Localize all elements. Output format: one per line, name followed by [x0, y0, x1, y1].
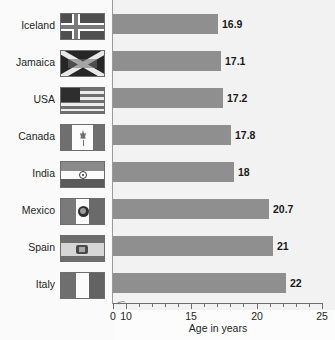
bar-value-india: 18 — [238, 162, 250, 182]
category-label-jamaica: Jamaica — [0, 57, 55, 68]
x-tick-25 — [322, 303, 323, 309]
x-minor-tick — [204, 303, 205, 307]
x-minor-tick — [309, 303, 310, 307]
category-label-italy: Italy — [0, 279, 55, 290]
bar-italy — [113, 273, 286, 293]
bar-canada — [113, 125, 231, 145]
x-axis-line — [113, 303, 323, 304]
category-label-india: India — [0, 168, 55, 179]
x-tick-label-20: 20 — [245, 310, 269, 322]
category-label-spain: Spain — [0, 242, 55, 253]
bar-spain — [113, 236, 273, 256]
bar-value-mexico: 20.7 — [273, 199, 293, 219]
flag-italy-icon — [60, 272, 105, 299]
x-tick-label-10: 10 — [114, 310, 138, 322]
category-label-mexico: Mexico — [0, 205, 55, 216]
flag-spain-icon — [60, 235, 105, 262]
category-label-panel — [0, 0, 113, 310]
bar-india — [113, 162, 234, 182]
bar-usa — [113, 88, 223, 108]
x-axis-title: Age in years — [113, 322, 323, 334]
flag-jamaica-icon — [60, 50, 105, 77]
chart-container: Iceland 16.9 Jamaica 17.1 USA 17.2 Canad… — [0, 0, 335, 340]
x-minor-tick — [283, 303, 284, 307]
x-tick-15 — [191, 303, 192, 309]
bar-value-canada: 17.8 — [235, 125, 255, 145]
bar-value-spain: 21 — [277, 236, 289, 256]
plot-area — [113, 0, 335, 310]
flag-usa-icon — [60, 87, 105, 114]
x-tick-label-25: 25 — [310, 310, 334, 322]
x-minor-tick — [152, 303, 153, 307]
x-tick-20 — [257, 303, 258, 309]
flag-mexico-icon — [60, 198, 105, 225]
bar-value-usa: 17.2 — [227, 88, 247, 108]
flag-iceland-icon — [60, 13, 105, 40]
x-minor-tick — [230, 303, 231, 307]
bar-jamaica — [113, 51, 221, 71]
x-minor-tick — [270, 303, 271, 307]
category-label-iceland: Iceland — [0, 20, 55, 31]
x-tick-label-15: 15 — [179, 310, 203, 322]
x-minor-tick — [217, 303, 218, 307]
x-tick-10 — [126, 303, 127, 309]
x-tick-0 — [113, 303, 114, 309]
flag-canada-icon — [60, 124, 105, 151]
bar-mexico — [113, 199, 269, 219]
x-minor-tick — [178, 303, 179, 307]
label-panel-footer — [0, 310, 113, 340]
x-minor-tick — [243, 303, 244, 307]
x-minor-tick — [296, 303, 297, 307]
category-label-canada: Canada — [0, 131, 55, 142]
bar-value-iceland: 16.9 — [222, 14, 242, 34]
y-axis-line — [112, 0, 113, 304]
category-label-usa: USA — [0, 94, 55, 105]
bar-value-italy: 22 — [290, 273, 302, 293]
flag-india-icon — [60, 161, 105, 188]
bar-iceland — [113, 14, 218, 34]
x-minor-tick — [139, 303, 140, 307]
bar-value-jamaica: 17.1 — [225, 51, 245, 71]
x-minor-tick — [165, 303, 166, 307]
